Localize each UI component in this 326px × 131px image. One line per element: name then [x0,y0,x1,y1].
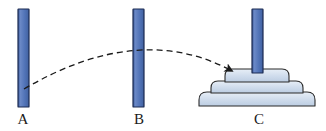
peg-c-post [252,9,263,73]
figure-canvas [0,0,326,131]
move-arrow [24,50,232,89]
peg-label-b: B [124,111,154,127]
peg-b[interactable] [133,9,144,107]
peg-b-post [133,9,144,107]
peg-a[interactable] [18,9,29,107]
move-arrow-path [24,50,232,89]
disk-large[interactable] [199,92,315,106]
peg-label-c: C [244,111,274,127]
peg-label-a: A [8,111,38,127]
hanoi-figure: A B C [0,0,326,131]
disk-medium[interactable] [211,81,303,93]
peg-a-post [18,9,29,107]
peg-c[interactable] [199,9,315,106]
